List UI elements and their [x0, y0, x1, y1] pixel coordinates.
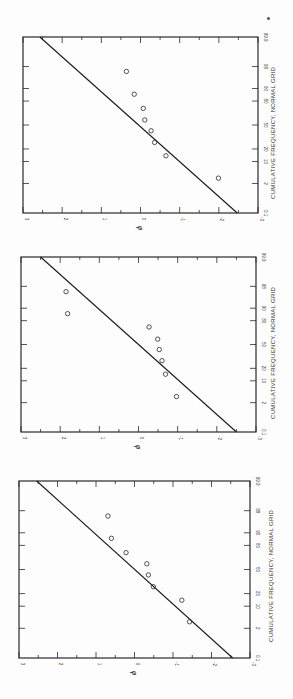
y-tick-label: -2: [219, 217, 224, 221]
data-point: [146, 573, 150, 577]
y-tick-label: 0: [139, 437, 144, 440]
plot-frame: [23, 37, 258, 213]
y-tick-label: -1: [180, 217, 185, 221]
data-point: [145, 562, 149, 566]
chart-1-x-axis-title: CUMULATIVE FREQUENCY, NORMAL GRID: [270, 67, 276, 199]
fitted-line: [40, 37, 237, 213]
data-point: [163, 372, 167, 376]
y-tick-label: -3: [251, 662, 256, 666]
data-point: [180, 598, 184, 602]
x-tick-label: 98: [261, 284, 266, 290]
x-tick-label: 20: [261, 366, 266, 372]
data-point: [149, 129, 153, 133]
y-tick-label: -3: [259, 217, 264, 221]
chart-2-x-axis-title: CUMULATIVE FREQUENCY, NORMAL GRID: [270, 287, 276, 419]
y-tick-label: -1: [174, 662, 179, 666]
x-tick-label: 2: [261, 401, 266, 404]
data-point: [187, 620, 191, 624]
y-tick-label: -1: [178, 436, 183, 440]
y-tick-label: 0: [135, 663, 140, 666]
x-tick-label: 0.1: [255, 655, 260, 662]
chart-panel-3: 3210-1-2-3φ0.1210205080909899.9 CUMULATI…: [0, 466, 293, 699]
x-tick-label: 2: [263, 182, 268, 185]
y-axis-title: φ: [134, 445, 142, 450]
data-point: [152, 140, 156, 144]
data-point: [160, 358, 164, 362]
y-tick-label: 2: [61, 437, 66, 440]
x-tick-label: 10: [263, 159, 268, 165]
x-tick-label: 20: [263, 146, 268, 152]
fitted-line: [41, 257, 237, 432]
y-tick-label: 0: [141, 218, 146, 221]
data-point: [106, 514, 110, 518]
x-tick-label: 0.1: [261, 429, 266, 436]
data-point: [132, 92, 136, 96]
data-point: [155, 337, 159, 341]
y-tick-label: 1: [97, 663, 102, 666]
x-tick-label: 2: [255, 627, 260, 630]
x-tick-label: 90: [261, 306, 266, 312]
chart-3-plot: 3210-1-2-3φ0.1210205080909899.9: [0, 466, 293, 699]
data-point: [141, 106, 145, 110]
y-tick-label: 2: [58, 663, 63, 666]
y-axis-title: φ: [136, 226, 144, 231]
x-tick-label: 20: [255, 591, 260, 597]
x-tick-label: 50: [255, 567, 260, 573]
x-tick-label: 80: [261, 318, 266, 324]
data-point: [65, 311, 69, 315]
x-tick-label: 10: [261, 378, 266, 384]
y-axis-title: φ: [130, 671, 138, 676]
data-point: [164, 154, 168, 158]
y-tick-label: -3: [257, 436, 262, 440]
x-tick-label: 98: [263, 64, 268, 70]
x-tick-label: 90: [255, 530, 260, 536]
data-point: [109, 536, 113, 540]
x-tick-label: 99.9: [261, 253, 266, 262]
x-tick-label: 50: [261, 342, 266, 348]
data-point: [216, 176, 220, 180]
x-tick-label: 50: [263, 122, 268, 128]
data-point: [124, 550, 128, 554]
x-tick-label: 98: [255, 508, 260, 514]
x-tick-label: 10: [255, 604, 260, 610]
data-point: [143, 118, 147, 122]
y-tick-label: 1: [100, 437, 105, 440]
chart-3-x-axis-title: CUMULATIVE FREQUENCY, NORMAL GRID: [268, 510, 274, 642]
x-tick-label: 80: [263, 99, 268, 105]
chart-1-plot: 3210-1-2-3φ0.1210205080909899.9: [0, 0, 293, 233]
y-tick-label: -2: [217, 436, 222, 440]
data-point: [147, 325, 151, 329]
x-tick-label: 0.1: [263, 210, 268, 217]
chart-panel-2: 3210-1-2-3φ0.1210205080909899.9 CUMULATI…: [0, 233, 293, 466]
y-tick-label: -2: [212, 662, 217, 666]
data-point: [157, 347, 161, 351]
data-point: [64, 289, 68, 293]
data-point: [124, 69, 128, 73]
y-tick-label: 2: [63, 218, 68, 221]
x-tick-label: 99.9: [263, 33, 268, 42]
y-tick-label: 3: [24, 218, 29, 221]
chart-2-plot: 3210-1-2-3φ0.1210205080909899.9: [0, 233, 293, 466]
x-tick-label: 99.9: [255, 477, 260, 486]
y-tick-label: 1: [102, 218, 107, 221]
data-point: [174, 394, 178, 398]
fitted-line: [37, 481, 233, 658]
scanned-page: 3210-1-2-3φ0.1210205080909899.9 CUMULATI…: [0, 0, 293, 699]
x-tick-label: 90: [263, 86, 268, 92]
x-tick-label: 80: [255, 543, 260, 549]
chart-panel-1: 3210-1-2-3φ0.1210205080909899.9 CUMULATI…: [0, 0, 293, 233]
y-tick-label: 3: [20, 663, 25, 666]
y-tick-label: 3: [22, 437, 27, 440]
